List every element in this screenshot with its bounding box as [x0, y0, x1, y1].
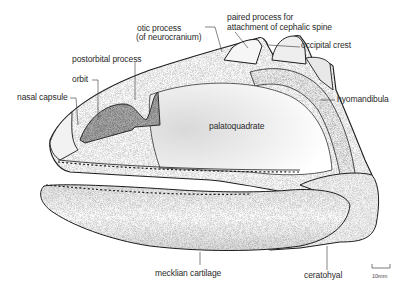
label-nasal-capsule: nasal capsule: [17, 93, 68, 103]
label-orbit: orbit: [72, 75, 88, 85]
label-ceratohyal: ceratohyal: [304, 271, 342, 281]
label-mecklian-cartilage: mecklian cartilage: [155, 269, 221, 279]
label-paired-process-2: attachment of cephalic spine: [227, 23, 332, 33]
label-occipital-crest: occipital crest: [301, 41, 351, 51]
label-otic-process-2: (of neurocranium): [136, 33, 201, 43]
label-postorbital-process: postorbital process: [72, 55, 141, 65]
scale-bar: [372, 264, 390, 268]
label-palatoquadrate: palatoquadrate: [209, 122, 264, 132]
label-hyomandibula: hyomandibula: [337, 95, 389, 105]
scale-bar-label: 10mm: [372, 273, 387, 279]
skull-diagram: otic process (of neurocranium) paired pr…: [0, 0, 409, 294]
paired-process: [224, 39, 262, 64]
